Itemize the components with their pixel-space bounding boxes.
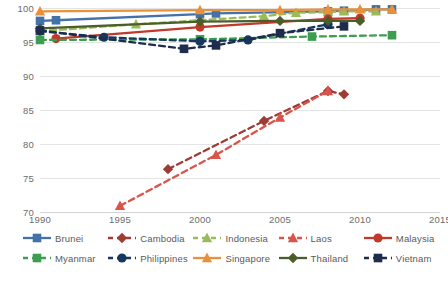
x-axis-ticks: 199019952000200520102015 [40, 214, 440, 230]
legend-swatch-cambodia [107, 232, 137, 244]
legend-row-2: MyanmarPhilippinesSingaporeThailandVietn… [22, 250, 448, 266]
data-point-marker [340, 22, 349, 31]
data-point-marker [212, 41, 221, 50]
data-point-marker [259, 116, 269, 126]
legend-swatch-philippines [107, 252, 137, 264]
legend-item-label: Myanmar [55, 253, 96, 264]
data-point-marker [180, 45, 189, 54]
data-point-marker [388, 31, 397, 40]
y-axis-tick-label: 80 [23, 139, 34, 150]
legend-item-label: Brunei [55, 233, 83, 244]
data-point-marker [163, 164, 173, 174]
x-axis-tick-label: 1990 [29, 214, 51, 225]
series-cambodia [163, 86, 349, 175]
legend-item-cambodia[interactable]: Cambodia [107, 230, 192, 246]
data-point-marker [195, 37, 204, 46]
legend-item-label: Cambodia [140, 233, 185, 244]
legend-item-vietnam[interactable]: Vietnam [363, 250, 448, 266]
x-axis-tick-label: 2005 [269, 214, 291, 225]
series-laos [115, 86, 333, 211]
x-axis-tick-label: 2000 [189, 214, 211, 225]
legend-item-malaysia[interactable]: Malaysia [363, 230, 448, 246]
data-point-marker [308, 32, 317, 41]
legend-item-singapore[interactable]: Singapore [192, 250, 277, 266]
data-point-marker [52, 16, 61, 25]
gridline-70: 70 [40, 212, 440, 213]
legend-item-brunei[interactable]: Brunei [22, 230, 107, 246]
legend-swatch-brunei [22, 232, 52, 244]
x-axis-tick-label: 2015 [429, 214, 448, 225]
legend-item-myanmar[interactable]: Myanmar [22, 250, 107, 266]
legend-row-1: BruneiCambodiaIndonesiaLaosMalaysia [22, 230, 448, 246]
y-axis-tick-label: 95 [23, 37, 34, 48]
data-point-marker [115, 200, 125, 210]
chart-legend: BruneiCambodiaIndonesiaLaosMalaysia Myan… [0, 230, 448, 274]
legend-item-label: Malaysia [396, 233, 435, 244]
legend-item-label: Laos [311, 233, 332, 244]
x-axis-tick-label: 2010 [349, 214, 371, 225]
data-point-marker [276, 29, 285, 38]
data-point-marker [275, 16, 285, 26]
plot-area: 707580859095100 [40, 8, 440, 212]
data-point-marker [36, 26, 45, 35]
legend-item-label: Vietnam [396, 253, 432, 264]
legend-item-thailand[interactable]: Thailand [278, 250, 363, 266]
legend-item-label: Indonesia [225, 233, 268, 244]
y-axis-tick-label: 75 [23, 173, 34, 184]
series-line [168, 91, 344, 169]
chart-container: 707580859095100 199019952000200520102015… [0, 0, 448, 282]
y-axis-tick-label: 85 [23, 105, 34, 116]
legend-swatch-laos [278, 232, 308, 244]
legend-swatch-malaysia [363, 232, 393, 244]
data-point-marker [51, 34, 60, 43]
legend-swatch-thailand [278, 252, 308, 264]
x-axis-tick-label: 1995 [109, 214, 131, 225]
legend-swatch-myanmar [22, 252, 52, 264]
legend-item-label: Thailand [311, 253, 349, 264]
data-point-marker [339, 89, 349, 99]
series-line [120, 91, 328, 206]
legend-item-philippines[interactable]: Philippines [107, 250, 192, 266]
legend-item-label: Philippines [140, 253, 188, 264]
y-axis-tick-label: 90 [23, 71, 34, 82]
y-axis-tick-label: 100 [18, 3, 34, 14]
legend-swatch-singapore [192, 252, 222, 264]
legend-item-laos[interactable]: Laos [278, 230, 363, 246]
data-point-marker [36, 36, 45, 45]
legend-item-label: Singapore [225, 253, 270, 264]
legend-item-indonesia[interactable]: Indonesia [192, 230, 277, 246]
legend-swatch-vietnam [363, 252, 393, 264]
data-point-marker [211, 149, 221, 159]
data-point-marker [275, 112, 285, 122]
legend-swatch-indonesia [192, 232, 222, 244]
series-layer [40, 8, 440, 212]
